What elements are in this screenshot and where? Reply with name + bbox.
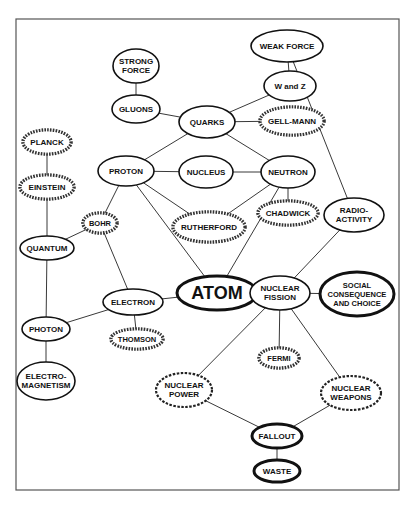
- node-label: EINSTEIN: [29, 183, 66, 192]
- node-bohr: BOHR: [83, 213, 117, 233]
- edge-nuclear-fission-nuclear-power: [198, 308, 265, 376]
- node-label: ACTIVITY: [336, 215, 373, 224]
- node-label: FALLOUT: [259, 432, 296, 441]
- node-label: ELECTRO-: [26, 372, 67, 381]
- edge-quantum-bohr: [66, 229, 87, 239]
- node-nucleus: NUCLEUS: [179, 156, 233, 188]
- node-photon: PHOTON: [22, 317, 70, 341]
- node-label: W and Z: [274, 82, 305, 91]
- node-label: NUCLEAR: [331, 384, 370, 393]
- node-fallout: FALLOUT: [252, 424, 302, 448]
- edge-proton-bohr: [105, 185, 119, 213]
- node-label: FORCE: [122, 66, 151, 75]
- node-electromagnetism: ELECTRO-MAGNETISM: [17, 362, 75, 400]
- node-label: THOMSON: [118, 335, 156, 344]
- edge-bohr-electron: [104, 233, 128, 289]
- node-label: WEAK FORCE: [260, 42, 315, 51]
- node-neutron: NEUTRON: [261, 156, 315, 188]
- node-nuclear-power: NUCLEARPOWER: [156, 373, 212, 407]
- node-w-and-z: W and Z: [264, 71, 316, 101]
- node-rutherford: RUTHERFORD: [173, 212, 245, 242]
- edge-electron-thomson: [134, 315, 136, 329]
- node-label: STRONG: [119, 57, 153, 66]
- edge-weak-force-w-and-z: [288, 62, 289, 71]
- node-label: PHOTON: [29, 325, 63, 334]
- node-label: GELL-MANN: [268, 117, 316, 126]
- node-planck: PLANCK: [23, 130, 71, 154]
- node-label: BOHR: [89, 219, 112, 228]
- node-label: GLUONS: [119, 105, 154, 114]
- node-label: PROTON: [109, 167, 143, 176]
- node-label: ATOM: [191, 283, 242, 303]
- node-strong-force: STRONGFORCE: [113, 49, 159, 83]
- node-social: SOCIALCONSEQUENCEAND CHOICE: [320, 272, 394, 316]
- edge-nuclear-power-fallout: [206, 401, 260, 428]
- edge-gluons-quarks: [159, 113, 180, 117]
- node-weak-force: WEAK FORCE: [251, 30, 323, 62]
- node-label: QUANTUM: [27, 244, 68, 253]
- node-nuclear-weapons: NUCLEARWEAPONS: [321, 376, 381, 410]
- edge-radioactivity-nuclear-fission: [294, 230, 340, 278]
- node-label: AND CHOICE: [333, 299, 381, 308]
- node-label: QUARKS: [190, 118, 225, 127]
- node-atom: ATOM: [177, 276, 257, 310]
- edge-electron-atom: [162, 297, 178, 299]
- edge-quarks-neutron: [226, 134, 269, 161]
- node-proton: PROTON: [98, 156, 154, 186]
- node-quarks: QUARKS: [179, 106, 235, 138]
- node-label: ELECTRON: [111, 298, 155, 307]
- node-einstein: EINSTEIN: [20, 175, 74, 199]
- node-label: PLANCK: [30, 138, 64, 147]
- edge-quarks-proton: [145, 134, 188, 160]
- node-label: SOCIAL: [343, 281, 372, 290]
- node-label: NUCLEAR: [260, 284, 299, 293]
- node-quantum: QUANTUM: [20, 236, 74, 260]
- node-label: NUCLEUS: [187, 168, 226, 177]
- node-nuclear-fission: NUCLEARFISSION: [250, 276, 310, 310]
- node-label: CHADWICK: [266, 209, 311, 218]
- node-fermi: FERMI: [259, 348, 299, 368]
- edge-quarks-w-and-z: [229, 95, 269, 112]
- node-label: RUTHERFORD: [181, 223, 237, 232]
- node-radioactivity: RADIO-ACTIVITY: [324, 198, 384, 232]
- edge-proton-rutherford: [143, 183, 190, 214]
- node-label: WASTE: [263, 467, 292, 476]
- edge-nuclear-fission-nuclear-weapons: [291, 309, 340, 377]
- node-label: WEAPONS: [330, 393, 372, 402]
- node-electron: ELECTRON: [103, 289, 163, 315]
- node-label: MAGNETISM: [22, 381, 71, 390]
- edge-nuclear-weapons-fallout: [293, 405, 330, 427]
- node-label: NEUTRON: [268, 168, 308, 177]
- edge-nuclear-fission-fermi: [279, 310, 280, 348]
- edge-photon-electron: [66, 310, 108, 323]
- node-label: FERMI: [267, 354, 290, 363]
- concept-map: STRONGFORCEGLUONSQUARKSWEAK FORCEW and Z…: [0, 0, 413, 505]
- diagram-frame: [16, 19, 399, 490]
- nodes-layer: STRONGFORCEGLUONSQUARKSWEAK FORCEW and Z…: [17, 30, 394, 482]
- node-thomson: THOMSON: [111, 329, 163, 349]
- node-label: FISSION: [264, 293, 296, 302]
- node-chadwick: CHADWICK: [258, 201, 318, 225]
- node-label: NUCLEAR: [164, 381, 203, 390]
- node-gell-mann: GELL-MANN: [260, 107, 324, 135]
- node-label: RADIO-: [340, 206, 369, 215]
- edge-quantum-photon: [46, 260, 47, 317]
- node-label: POWER: [169, 390, 199, 399]
- node-gluons: GLUONS: [112, 95, 160, 123]
- node-label: CONSEQUENCE: [328, 290, 387, 299]
- node-waste: WASTE: [254, 460, 300, 482]
